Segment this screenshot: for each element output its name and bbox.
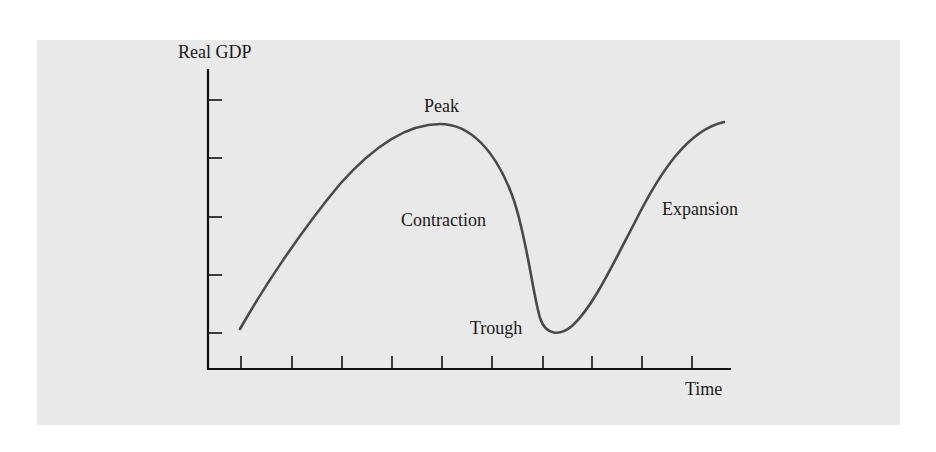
expansion-label: Expansion	[662, 199, 738, 219]
x-axis-label: Time	[685, 379, 722, 399]
business-cycle-chart: Real GDP Time Peak Contraction Trough Ex…	[0, 0, 936, 452]
x-ticks	[241, 356, 692, 369]
y-axis-label: Real GDP	[178, 42, 252, 62]
trough-label: Trough	[470, 318, 522, 338]
y-ticks	[208, 100, 222, 333]
contraction-label: Contraction	[401, 210, 486, 230]
peak-label: Peak	[424, 96, 459, 116]
